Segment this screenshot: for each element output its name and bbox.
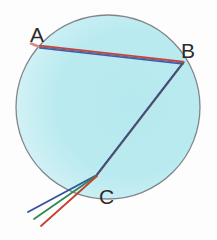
- dispersion-figure: A B C: [0, 0, 217, 240]
- label-a: A: [30, 23, 44, 46]
- figure-canvas: A B C: [0, 0, 217, 240]
- label-c: C: [99, 185, 114, 208]
- label-b: B: [181, 39, 195, 62]
